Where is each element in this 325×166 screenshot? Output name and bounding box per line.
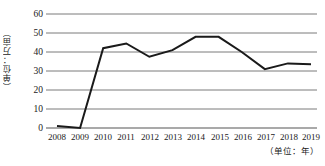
x-tick-label: 2019 <box>302 131 320 143</box>
x-tick-label: 2017 <box>257 131 275 143</box>
x-tick-label: 2011 <box>117 131 135 143</box>
line-chart: （单位：万亩） 60 50 40 30 20 10 0 2008 2009 20… <box>0 0 325 166</box>
x-tick-label: 2013 <box>164 131 182 143</box>
data-series-line <box>57 37 311 128</box>
x-tick-label: 2014 <box>187 131 205 143</box>
gridlines <box>46 14 317 128</box>
x-tick-label: 2018 <box>280 131 298 143</box>
x-tick-label: 2015 <box>211 131 229 143</box>
x-axis-title: （单位：年） <box>265 145 319 157</box>
x-tick-label: 2008 <box>48 131 66 143</box>
x-tick-label: 2010 <box>94 131 112 143</box>
x-tick-label: 2016 <box>234 131 252 143</box>
x-tick-label: 2012 <box>141 131 159 143</box>
x-tick-label: 2009 <box>71 131 89 143</box>
x-axis-tick-labels: 2008 2009 2010 2011 2012 2013 2014 2015 … <box>0 131 325 145</box>
